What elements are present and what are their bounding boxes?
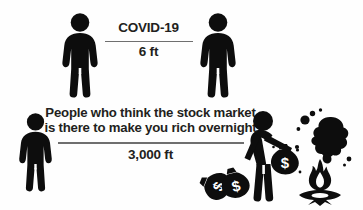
- stock-market-divider: [58, 142, 244, 144]
- covid-divider: [105, 41, 193, 42]
- covid-label: COVID-19: [0, 20, 297, 35]
- money-bag-icon: $: [218, 165, 252, 200]
- money-bag-symbol: $: [281, 154, 290, 171]
- covid-distance-label: 6 ft: [0, 44, 297, 59]
- money-bag-icon: $: [268, 142, 302, 176]
- infographic-canvas: COVID-19 6 ft People who think the stock…: [0, 0, 363, 210]
